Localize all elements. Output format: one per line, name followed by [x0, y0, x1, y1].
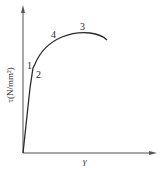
- stress-strain-curve: [23, 33, 107, 153]
- y-axis-arrow-icon: [21, 5, 25, 13]
- point-label-4: 4: [51, 30, 56, 40]
- y-axis-label: τ(N/mm²): [5, 55, 15, 115]
- point-label-1: 1: [27, 61, 32, 71]
- x-axis-label: γ: [83, 156, 87, 166]
- stress-strain-diagram: τ(N/mm²) γ 1 2 4 3: [0, 0, 165, 172]
- x-axis-arrow-icon: [149, 151, 157, 155]
- point-label-2: 2: [36, 70, 41, 80]
- point-label-3: 3: [80, 22, 85, 32]
